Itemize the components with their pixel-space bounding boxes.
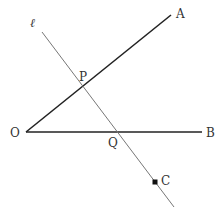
label-line-l: ℓ: [30, 16, 35, 30]
label-O: O: [10, 126, 20, 140]
label-P: P: [79, 70, 87, 84]
geometry-diagram: ℓ A P O Q B C: [0, 0, 222, 223]
label-A: A: [175, 7, 185, 21]
ray-OA: [26, 15, 171, 132]
point-C-marker: [153, 180, 158, 185]
label-C: C: [161, 174, 170, 188]
label-B: B: [206, 126, 215, 140]
label-Q: Q: [108, 136, 118, 150]
